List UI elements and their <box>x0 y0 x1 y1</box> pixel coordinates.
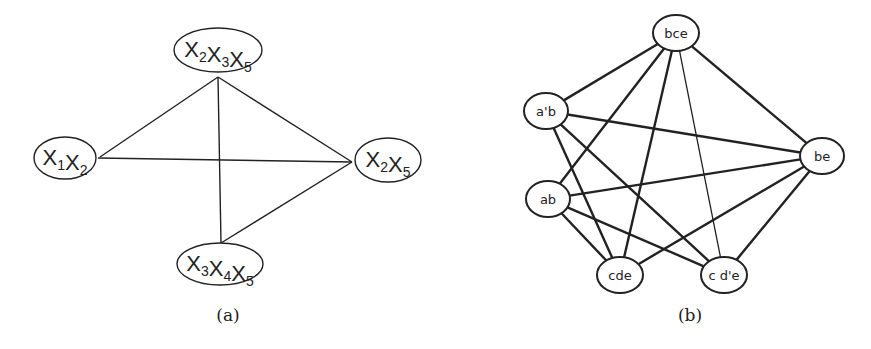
node-cde: cde <box>597 257 643 293</box>
edge-a_prime_b-be <box>568 115 801 153</box>
graph-b-edges <box>554 44 810 266</box>
edge-bce-cde <box>624 51 672 258</box>
node-x2x5: X2X5 <box>355 138 421 182</box>
node-x3x4x5: X3X4X5 <box>177 243 263 289</box>
node-label: a'b <box>536 104 556 119</box>
graph-a-edges <box>98 77 352 243</box>
node-label: ab <box>540 192 556 207</box>
edge-bce-be <box>692 46 807 143</box>
node-label: bce <box>664 26 687 41</box>
node-label: be <box>814 149 830 164</box>
graph-b-caption: (b) <box>678 305 702 325</box>
edge-x1x2-x2x5 <box>98 158 352 162</box>
graph-a-nodes: X2X3X5X1X2X2X5X3X4X5 <box>34 28 421 289</box>
node-be: be <box>800 138 844 174</box>
node-label: cde <box>608 268 631 283</box>
node-c_d_prime_e: c d'e <box>701 257 747 293</box>
edge-bce-c_d_prime_e <box>680 51 721 257</box>
edge-bce-a_prime_b <box>564 44 658 100</box>
node-ab: ab <box>526 181 570 217</box>
node-x2x3x5: X2X3X5 <box>174 28 262 75</box>
graph-a: X2X3X5X1X2X2X5X3X4X5 (a) <box>34 28 421 325</box>
graph-a-caption: (a) <box>216 305 239 325</box>
edge-x2x3x5-x1x2 <box>100 77 218 157</box>
node-a_prime_b: a'b <box>524 93 568 129</box>
graph-b: bcea'bbeabcdec d'e (b) <box>524 15 844 325</box>
node-bce: bce <box>653 15 699 51</box>
node-label: c d'e <box>708 268 739 283</box>
node-x1x2: X1X2 <box>34 137 96 179</box>
edge-x2x3x5-x2x5 <box>218 77 352 162</box>
figure-canvas: X2X3X5X1X2X2X5X3X4X5 (a) bcea'bbeabcdec … <box>0 0 871 349</box>
graph-b-nodes: bcea'bbeabcdec d'e <box>524 15 844 293</box>
edge-x3x4x5-x2x5 <box>221 162 352 243</box>
